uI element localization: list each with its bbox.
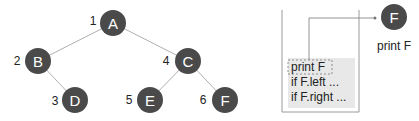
visit-order: 3 xyxy=(52,94,59,108)
visit-order: 6 xyxy=(200,93,207,107)
node-label: D xyxy=(70,92,81,109)
traversal-diagram: A 1 B 2 C 4 D 3 E 5 F 6 print F if F.lef… xyxy=(0,0,419,121)
output-node-f: F xyxy=(381,4,407,30)
node-label: A xyxy=(108,15,118,32)
visit-order: 2 xyxy=(14,54,21,68)
visit-order: 5 xyxy=(126,93,133,107)
frame-line-1: print F xyxy=(291,60,325,74)
node-label: C xyxy=(183,53,194,70)
tree-node-e: E 5 xyxy=(126,87,163,113)
output-node-label: F xyxy=(389,9,398,26)
output-connector xyxy=(309,18,375,60)
tree-node-b: B 2 xyxy=(14,48,51,74)
connector-arrow-dot xyxy=(374,17,377,20)
tree-node-f: F 6 xyxy=(200,87,238,113)
frame-line-3: if F.right ... xyxy=(291,90,346,104)
frame-line-2: if F.left ... xyxy=(291,75,339,89)
output-caption: print F xyxy=(377,39,411,53)
call-stack: print F if F.left ... if F.right ... xyxy=(282,10,359,112)
visit-order: 4 xyxy=(163,54,170,68)
tree-node-d: D 3 xyxy=(52,87,88,113)
tree-node-c: C 4 xyxy=(163,48,201,74)
node-label: B xyxy=(33,53,43,70)
node-label: F xyxy=(220,92,229,109)
visit-order: 1 xyxy=(90,14,97,28)
node-label: E xyxy=(145,92,155,109)
